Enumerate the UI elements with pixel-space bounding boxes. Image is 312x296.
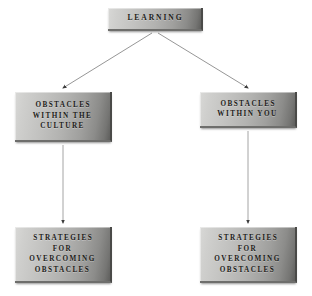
- node-obstacles-within-the-culture[interactable]: OBSTACLES WITHIN THE CULTURE: [15, 92, 112, 142]
- diagram-canvas: LEARNING OBSTACLES WITHIN THE CULTURE OB…: [0, 0, 312, 296]
- node-learning-label: LEARNING: [125, 13, 183, 24]
- node-obstacles-within-the-culture-label: OBSTACLES WITHIN THE CULTURE: [33, 100, 93, 132]
- node-strategies-for-overcoming-obstacles-right[interactable]: STRATEGIES FOR OVERCOMING OBSTACLES: [200, 227, 297, 283]
- connector-learning-to-culture: [63, 33, 152, 88]
- node-strategies-right-label: STRATEGIES FOR OVERCOMING OBSTACLES: [214, 233, 280, 275]
- connector-learning-to-you: [158, 33, 248, 88]
- node-strategies-for-overcoming-obstacles-left[interactable]: STRATEGIES FOR OVERCOMING OBSTACLES: [15, 227, 112, 283]
- node-strategies-left-label: STRATEGIES FOR OVERCOMING OBSTACLES: [29, 233, 95, 275]
- node-learning[interactable]: LEARNING: [108, 8, 203, 31]
- node-obstacles-within-you-label: OBSTACLES WITHIN YOU: [217, 99, 277, 120]
- node-obstacles-within-you[interactable]: OBSTACLES WITHIN YOU: [200, 92, 297, 128]
